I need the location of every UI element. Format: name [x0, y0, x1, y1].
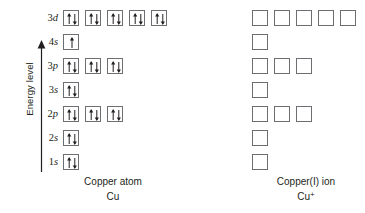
formula-symbol: Cu: [107, 191, 120, 202]
caption-formula: Cu+: [231, 189, 365, 204]
subshell-letter: s: [54, 132, 58, 143]
energy-axis-label: Energy level: [25, 37, 35, 141]
orbital-box-group-3s: [63, 82, 79, 98]
orbital-box-3d-3: [107, 10, 123, 26]
orbital-box-2p-1: [63, 106, 79, 122]
orbital-box-group-1s: [63, 154, 79, 170]
orbital-box-1s-1: [63, 154, 79, 170]
orbital-row-3s: [252, 79, 268, 100]
orbital-box-3p-3: [296, 58, 312, 74]
electron-pair-arrows-icon: [64, 107, 80, 123]
orbital-label-2s: 2s: [38, 132, 58, 143]
orbital-label-3p: 3p: [38, 60, 58, 71]
orbital-box-2s-1: [63, 130, 79, 146]
electron-pair-arrows-icon: [86, 59, 102, 75]
caption-copper-one-ion: Copper(I) ion Cu+: [231, 176, 365, 203]
orbital-box-1s-1: [252, 154, 268, 170]
orbital-row-2s: [252, 127, 268, 148]
orbital-box-3p-1: [63, 58, 79, 74]
orbital-box-group-2s: [252, 130, 268, 146]
orbital-box-3s-1: [63, 82, 79, 98]
orbital-box-3p-3: [107, 58, 123, 74]
electron-pair-arrows-icon: [108, 107, 124, 123]
orbital-box-2s-1: [252, 130, 268, 146]
orbital-box-group-4s: [252, 34, 268, 50]
orbital-box-2p-2: [85, 106, 101, 122]
electron-pair-arrows-icon: [108, 59, 124, 75]
electron-pair-arrows-icon: [64, 83, 80, 99]
orbital-box-3p-2: [85, 58, 101, 74]
subshell-letter: s: [54, 156, 58, 167]
orbital-row-3p: 3p: [38, 55, 123, 76]
orbital-box-group-2s: [63, 130, 79, 146]
orbital-box-group-3d: [252, 10, 356, 26]
orbital-box-2p-1: [252, 106, 268, 122]
electron-single-arrow-icon: [64, 35, 80, 51]
orbital-box-3p-1: [252, 58, 268, 74]
orbital-box-3d-4: [318, 10, 334, 26]
caption-title: Copper atom: [84, 176, 142, 187]
orbital-box-3d-3: [296, 10, 312, 26]
orbital-box-group-4s: [63, 34, 79, 50]
orbital-box-3p-2: [274, 58, 290, 74]
orbital-box-4s-1: [252, 34, 268, 50]
orbital-box-3d-5: [151, 10, 167, 26]
subshell-letter: p: [53, 108, 58, 119]
orbital-row-4s: 4s: [38, 31, 79, 52]
orbital-box-group-2p: [252, 106, 312, 122]
subshell-letter: p: [53, 60, 58, 71]
electron-pair-arrows-icon: [108, 11, 124, 27]
orbital-box-group-3p: [63, 58, 123, 74]
orbital-label-1s: 1s: [38, 156, 58, 167]
orbital-box-3d-1: [63, 10, 79, 26]
orbital-label-2p: 2p: [38, 108, 58, 119]
orbital-box-group-3s: [252, 82, 268, 98]
electron-pair-arrows-icon: [130, 11, 146, 27]
orbital-box-group-3d: [63, 10, 167, 26]
caption-title: Copper(I) ion: [277, 176, 335, 187]
caption-copper-atom: Copper atom Cu: [38, 176, 188, 203]
orbital-box-2p-2: [274, 106, 290, 122]
electron-pair-arrows-icon: [64, 131, 80, 147]
orbital-label-3d: 3d: [38, 12, 58, 23]
subshell-letter: s: [54, 84, 58, 95]
orbital-box-group-2p: [63, 106, 123, 122]
orbital-row-3p: [252, 55, 312, 76]
orbital-row-1s: 1s: [38, 151, 79, 172]
orbital-box-3d-2: [85, 10, 101, 26]
electron-pair-arrows-icon: [86, 107, 102, 123]
subshell-letter: d: [53, 12, 58, 23]
formula-charge: +: [310, 190, 315, 199]
orbital-row-2p: [252, 103, 312, 124]
formula-symbol: Cu: [297, 191, 310, 202]
electron-pair-arrows-icon: [152, 11, 168, 27]
orbital-box-3d-5: [340, 10, 356, 26]
electron-pair-arrows-icon: [64, 155, 80, 171]
electron-pair-arrows-icon: [64, 59, 80, 75]
orbital-label-3s: 3s: [38, 84, 58, 95]
orbital-label-4s: 4s: [38, 36, 58, 47]
orbital-row-1s: [252, 151, 268, 172]
orbital-row-3d: 3d: [38, 7, 167, 28]
orbital-box-3d-4: [129, 10, 145, 26]
orbital-diagram: Energy level 3d4s3p3s2p2s1s Copper atom …: [0, 0, 365, 213]
caption-formula: Cu: [38, 189, 188, 204]
orbital-row-3s: 3s: [38, 79, 79, 100]
orbital-box-3s-1: [252, 82, 268, 98]
orbital-box-3d-1: [252, 10, 268, 26]
orbital-row-4s: [252, 31, 268, 52]
orbital-box-2p-3: [296, 106, 312, 122]
orbital-row-3d: [252, 7, 356, 28]
electron-pair-arrows-icon: [64, 11, 80, 27]
orbital-box-2p-3: [107, 106, 123, 122]
orbital-box-group-3p: [252, 58, 312, 74]
orbital-box-4s-1: [63, 34, 79, 50]
orbital-row-2s: 2s: [38, 127, 79, 148]
orbital-box-group-1s: [252, 154, 268, 170]
subshell-letter: s: [54, 36, 58, 47]
orbital-row-2p: 2p: [38, 103, 123, 124]
orbital-box-3d-2: [274, 10, 290, 26]
electron-pair-arrows-icon: [86, 11, 102, 27]
